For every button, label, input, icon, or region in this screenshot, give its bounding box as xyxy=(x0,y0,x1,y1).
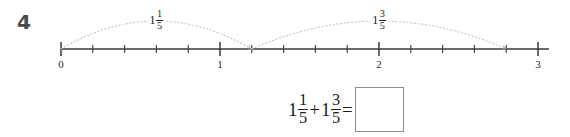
jump-label-1: 115 xyxy=(148,9,166,32)
equation-term-2: 1 3 5 xyxy=(321,92,341,127)
jump-2-fraction: 35 xyxy=(379,9,386,32)
equation-expression: 1 1 5 + 1 3 5 = xyxy=(288,92,354,127)
answer-input-box[interactable] xyxy=(355,87,404,132)
number-line-figure: 0123 115135 xyxy=(0,0,570,80)
number-line-svg xyxy=(0,0,570,80)
term-2-denominator: 5 xyxy=(331,110,341,127)
term-1-denominator: 5 xyxy=(298,110,308,127)
jump-1-fraction: 15 xyxy=(156,9,163,32)
term-2-fraction: 3 5 xyxy=(331,92,341,127)
jump-2-denominator: 5 xyxy=(379,21,386,32)
jump-2-numerator: 3 xyxy=(379,9,386,20)
term-2-whole: 1 xyxy=(321,100,331,119)
axis-label-3: 3 xyxy=(526,58,550,70)
worksheet-problem: 4 0123 115135 1 1 5 + 1 xyxy=(0,0,570,137)
axis-label-1: 1 xyxy=(208,58,232,70)
equation-row: 1 1 5 + 1 3 5 = xyxy=(288,86,404,132)
term-1-numerator: 1 xyxy=(298,92,308,109)
axis-label-0: 0 xyxy=(49,58,73,70)
plus-operator: + xyxy=(308,100,321,119)
equals-operator: = xyxy=(341,100,354,119)
term-2-numerator: 3 xyxy=(331,92,341,109)
jump-2-mixed-number: 135 xyxy=(372,9,386,32)
jump-label-2: 135 xyxy=(370,9,388,32)
term-1-fraction: 1 5 xyxy=(298,92,308,127)
jump-1-denominator: 5 xyxy=(156,21,163,32)
axis-label-2: 2 xyxy=(367,58,391,70)
jump-1-mixed-number: 115 xyxy=(150,9,164,32)
equation-term-1: 1 1 5 xyxy=(288,92,308,127)
jump-1-numerator: 1 xyxy=(156,9,163,20)
term-1-whole: 1 xyxy=(288,100,298,119)
